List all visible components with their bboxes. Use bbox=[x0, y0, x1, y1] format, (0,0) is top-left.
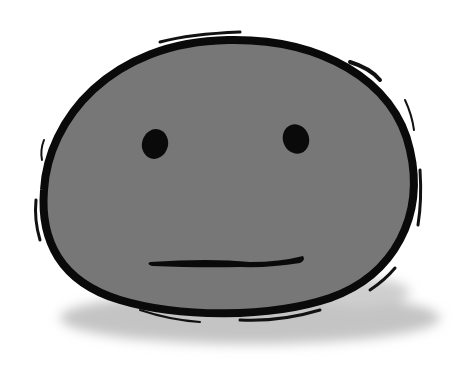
blob-face-illustration bbox=[0, 0, 458, 368]
blob-body bbox=[44, 40, 414, 313]
